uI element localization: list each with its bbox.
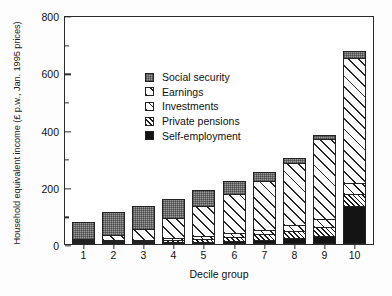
y-axis-tick-label: 0 (0, 240, 65, 252)
bar-segment[interactable] (343, 58, 366, 184)
bar-segment[interactable] (223, 194, 246, 235)
x-axis-tick-mark (113, 244, 114, 249)
x-axis-tick-mark (173, 244, 174, 249)
bar-segment[interactable] (132, 242, 155, 244)
bar-segment[interactable] (102, 242, 125, 244)
bar-segment[interactable] (223, 241, 246, 244)
x-axis-tick-mark (294, 244, 295, 249)
legend-swatch-social-security-icon (145, 73, 154, 82)
x-axis-tick-label: 10 (349, 249, 361, 261)
legend-item: Investments (145, 99, 241, 114)
bar-group[interactable] (283, 159, 306, 244)
legend-swatch-investments-icon (145, 102, 154, 111)
bar-segment[interactable] (102, 212, 125, 237)
y-axis-tick-mark (65, 245, 71, 246)
bar-group[interactable] (343, 52, 366, 244)
bar-group[interactable] (162, 200, 185, 244)
bar-segment[interactable] (253, 240, 276, 244)
bar-group[interactable] (253, 173, 276, 244)
bar-segment[interactable] (132, 206, 155, 230)
bar-segment[interactable] (192, 242, 215, 244)
x-axis-tick-mark (354, 244, 355, 249)
bar-group[interactable] (223, 182, 246, 244)
y-axis-tick-label: 400 (0, 126, 65, 138)
bar-segment[interactable] (162, 199, 185, 220)
bar-segment[interactable] (283, 163, 306, 226)
x-axis-tick-label: 9 (322, 249, 328, 261)
x-axis-tick-mark (234, 244, 235, 249)
x-axis-tick-label: 8 (292, 249, 298, 261)
bar-group[interactable] (72, 223, 95, 244)
legend-label: Private pensions (162, 115, 240, 127)
legend-label: Self-employment (162, 130, 241, 142)
legend-swatch-self-employment-icon (145, 131, 154, 140)
bar-segment[interactable] (313, 236, 336, 244)
bar-segment[interactable] (162, 218, 185, 239)
bar-group[interactable] (132, 207, 155, 244)
x-axis-tick-label: 4 (171, 249, 177, 261)
bar-segment[interactable] (343, 206, 366, 244)
x-axis-tick-mark (83, 244, 84, 249)
x-axis-tick-label: 1 (81, 249, 87, 261)
plot-area: 020040060080012345678910 Social security… (64, 16, 374, 245)
legend-item: Self-employment (145, 128, 241, 143)
bar-segment[interactable] (313, 139, 336, 220)
bar-segment[interactable] (72, 222, 95, 240)
x-axis-title: Decile group (64, 268, 374, 280)
bar-segment[interactable] (192, 190, 215, 207)
x-axis-tick-mark (143, 244, 144, 249)
legend-swatch-earnings-icon (145, 87, 154, 96)
stacked-bar-chart: Household equivalent income (£ p.w., Jan… (0, 0, 392, 296)
bar-segment[interactable] (72, 242, 95, 244)
bar-segment[interactable] (253, 181, 276, 231)
legend-label: Social security (162, 71, 230, 83)
x-axis-tick-label: 3 (141, 249, 147, 261)
legend-label: Earnings (162, 86, 203, 98)
x-axis-tick-label: 7 (262, 249, 268, 261)
legend-item: Social security (145, 70, 241, 85)
x-axis-tick-label: 2 (111, 249, 117, 261)
bar-group[interactable] (313, 136, 336, 244)
y-axis-tick-label: 200 (0, 183, 65, 195)
bar-segment[interactable] (283, 238, 306, 244)
bar-group[interactable] (192, 191, 215, 244)
x-axis-tick-label: 6 (232, 249, 238, 261)
legend-item: Earnings (145, 85, 241, 100)
x-axis-tick-mark (203, 244, 204, 249)
x-axis-tick-mark (324, 244, 325, 249)
bar-segment[interactable] (192, 206, 215, 237)
bar-group[interactable] (102, 213, 125, 244)
y-axis-tick-label: 800 (0, 11, 65, 23)
legend-label: Investments (162, 100, 219, 112)
x-axis-tick-label: 5 (201, 249, 207, 261)
y-axis-tick-label: 600 (0, 68, 65, 80)
bar-segment[interactable] (162, 242, 185, 244)
x-axis-tick-mark (264, 244, 265, 249)
legend-swatch-private-pensions-icon (145, 117, 154, 126)
legend-item: Private pensions (145, 114, 241, 129)
legend: Social security Earnings Investments Pri… (145, 70, 241, 143)
